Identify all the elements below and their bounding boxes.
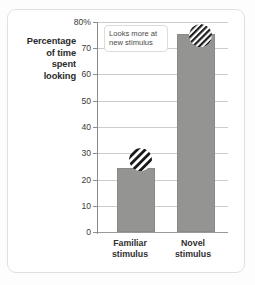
tick-mark-50 [93, 101, 97, 102]
tick-mark-60 [93, 74, 97, 75]
striped-disc-icon-familiar [129, 148, 152, 171]
plot-area [97, 22, 228, 233]
tick-mark-20 [93, 180, 97, 181]
category-label-novel-line-1: Novel [158, 238, 228, 249]
tick-mark-10 [93, 206, 97, 207]
category-label-novel-line-2: stimulus [158, 249, 228, 260]
tick-label-20: 20 [51, 175, 91, 185]
tick-label-0: 0 [51, 227, 91, 237]
category-label-novel: Novel stimulus [158, 238, 228, 260]
tick-label-10: 10 [51, 201, 91, 211]
tick-label-70: 70 [51, 43, 91, 53]
tick-label-40: 40 [51, 122, 91, 132]
bar-novel-stimulus [177, 34, 215, 232]
tick-mark-40 [93, 127, 97, 128]
gridline-80 [97, 22, 228, 23]
annotation-line-1: Looks more at [109, 29, 164, 38]
tick-label-30: 30 [51, 148, 91, 158]
category-label-familiar-line-2: stimulus [95, 249, 165, 260]
annotation-callout: Looks more at new stimulus [104, 25, 168, 52]
y-axis-line [97, 22, 98, 234]
tick-label-60: 60 [51, 69, 91, 79]
category-label-familiar: Familiar stimulus [95, 238, 165, 260]
bar-familiar-stimulus [117, 168, 155, 232]
y-axis-tick-labels: 80% 70 60 50 40 30 20 10 0 [48, 0, 91, 285]
tick-mark-30 [93, 153, 97, 154]
tick-mark-0 [93, 232, 97, 233]
tick-label-50: 50 [51, 96, 91, 106]
chart-figure: Percentage of time spent looking 80% 70 … [0, 0, 255, 285]
striped-disc-svg-novel [189, 24, 212, 47]
tick-mark-70 [93, 48, 97, 49]
tick-label-80: 80% [51, 17, 91, 27]
gridline-0-baseline [97, 232, 228, 233]
category-label-familiar-line-1: Familiar [95, 238, 165, 249]
striped-disc-icon-novel [189, 24, 212, 47]
annotation-line-2: new stimulus [109, 38, 164, 47]
striped-disc-svg-familiar [129, 148, 152, 171]
tick-mark-80 [93, 22, 97, 23]
